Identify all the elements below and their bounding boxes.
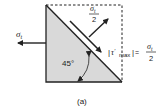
svg-text:τ': τ'	[111, 48, 116, 57]
svg-text:|: |	[108, 48, 110, 57]
svg-text:σt: σt	[90, 4, 96, 14]
caption: (a)	[77, 97, 87, 106]
stress-element-diagram: σt 45° σt 2 | τ' max | = σt 2 (a)	[0, 0, 165, 111]
svg-text:=: =	[135, 49, 139, 56]
svg-text:max: max	[119, 52, 130, 58]
svg-text:|: |	[132, 48, 134, 57]
left-stress-label: σt	[16, 29, 22, 40]
shear-stress-label: | τ' max | = σt 2	[108, 42, 156, 63]
angle-label: 45°	[62, 59, 74, 68]
svg-text:2: 2	[149, 54, 153, 63]
normal-stress-label: σt 2	[89, 4, 99, 24]
svg-text:2: 2	[92, 15, 96, 24]
svg-text:σt: σt	[147, 42, 153, 52]
